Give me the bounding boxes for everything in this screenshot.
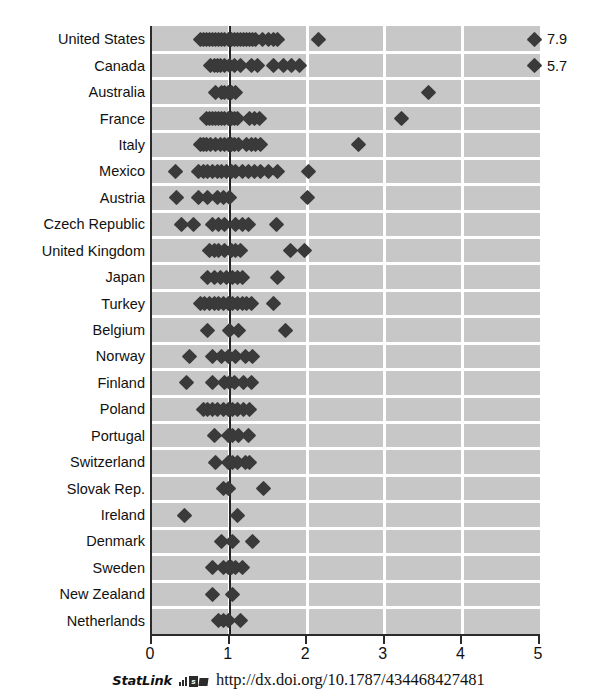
category-label-belgium: Belgium: [3, 323, 145, 338]
x-tick-label-4: 4: [440, 645, 480, 663]
statlink-footer: StatLink s http://dx.doi.org/10.1787/434…: [0, 668, 597, 692]
x-tick-label-0: 0: [130, 645, 170, 663]
statlink-barchart-icon: s: [179, 674, 209, 687]
gridline-x-2: [306, 26, 309, 634]
row-separator: [152, 395, 540, 398]
row-separator: [152, 474, 540, 477]
y-axis-category-labels: United StatesCanadaAustraliaFranceItalyM…: [0, 26, 145, 634]
row-separator: [152, 262, 540, 265]
category-label-mexico: Mexico: [3, 164, 145, 179]
x-tick-label-3: 3: [363, 645, 403, 663]
category-label-turkey: Turkey: [3, 297, 145, 312]
value-label: 7.9: [547, 32, 567, 47]
row-separator: [152, 183, 540, 186]
row-separator: [152, 580, 540, 583]
row-separator: [152, 130, 540, 133]
off-scale-value-annotations: 7.95.7: [544, 26, 597, 634]
category-label-poland: Poland: [3, 402, 145, 417]
category-label-netherlands: Netherlands: [3, 614, 145, 629]
x-tick-label-5: 5: [518, 645, 558, 663]
category-label-italy: Italy: [3, 138, 145, 153]
data-point: [178, 375, 194, 391]
data-point: [186, 216, 202, 232]
row-separator: [152, 447, 540, 450]
data-point: [169, 190, 185, 206]
category-label-czech-republic: Czech Republic: [3, 217, 145, 232]
data-point-off-scale: [527, 31, 543, 47]
value-label: 5.7: [547, 59, 567, 74]
x-axis: [150, 634, 540, 645]
x-tick-2: [305, 636, 307, 644]
category-label-united-kingdom: United Kingdom: [3, 244, 145, 259]
category-label-norway: Norway: [3, 349, 145, 364]
data-point: [270, 269, 286, 285]
statlink-glyph-letter: s: [189, 676, 198, 687]
x-tick-1: [228, 636, 230, 644]
statlink-url[interactable]: http://dx.doi.org/10.1787/434468427481: [216, 670, 485, 690]
category-label-australia: Australia: [3, 85, 145, 100]
x-axis-tick-labels: 012345: [0, 645, 597, 665]
data-point: [311, 31, 327, 47]
chart-title: [250, 0, 410, 9]
category-label-slovak-rep: Slovak Rep.: [3, 482, 145, 497]
row-separator: [152, 315, 540, 318]
data-point: [270, 164, 286, 180]
data-point: [301, 164, 317, 180]
statlink-label: StatLink: [112, 673, 172, 688]
data-point: [177, 507, 193, 523]
row-separator: [152, 421, 540, 424]
data-point: [231, 322, 247, 338]
row-separator: [152, 157, 540, 160]
data-point: [299, 190, 315, 206]
data-point: [420, 84, 436, 100]
data-point: [233, 613, 249, 629]
x-tick-3: [383, 636, 385, 644]
row-separator: [152, 289, 540, 292]
data-point: [230, 507, 246, 523]
x-tick-label-1: 1: [208, 645, 248, 663]
category-label-ireland: Ireland: [3, 508, 145, 523]
data-point: [296, 243, 312, 259]
row-separator: [152, 210, 540, 213]
category-label-sweden: Sweden: [3, 561, 145, 576]
row-separator: [152, 500, 540, 503]
x-tick-0: [150, 636, 152, 644]
row-separator: [152, 342, 540, 345]
data-point: [278, 322, 294, 338]
gridline-x-3: [383, 26, 386, 634]
data-point: [206, 428, 222, 444]
gridline-x-4: [461, 26, 464, 634]
category-label-united-states: United States: [3, 32, 145, 47]
row-separator: [152, 236, 540, 239]
row-separator: [152, 527, 540, 530]
category-label-finland: Finland: [3, 376, 145, 391]
data-point: [351, 137, 367, 153]
row-separator: [152, 77, 540, 80]
data-point: [205, 587, 221, 603]
data-point: [240, 428, 256, 444]
plot-inner: [152, 26, 540, 634]
data-point-off-scale: [527, 58, 543, 74]
x-tick-4: [460, 636, 462, 644]
chart-figure: United StatesCanadaAustraliaFranceItalyM…: [0, 0, 597, 694]
plot-area: [150, 26, 540, 634]
row-separator: [152, 606, 540, 609]
data-point: [268, 216, 284, 232]
category-label-new-zealand: New Zealand: [3, 587, 145, 602]
data-point: [282, 243, 298, 259]
x-tick-label-2: 2: [285, 645, 325, 663]
data-point: [394, 111, 410, 127]
category-label-switzerland: Switzerland: [3, 455, 145, 470]
row-separator: [152, 104, 540, 107]
category-label-france: France: [3, 112, 145, 127]
category-label-denmark: Denmark: [3, 534, 145, 549]
category-label-austria: Austria: [3, 191, 145, 206]
row-separator: [152, 368, 540, 371]
category-label-japan: Japan: [3, 270, 145, 285]
x-tick-5: [538, 636, 540, 644]
category-label-portugal: Portugal: [3, 429, 145, 444]
data-point: [200, 322, 216, 338]
row-separator: [152, 553, 540, 556]
data-point: [181, 349, 197, 365]
category-label-canada: Canada: [3, 59, 145, 74]
